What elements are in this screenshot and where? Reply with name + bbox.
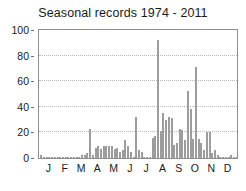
bar [76, 157, 78, 158]
bar [92, 155, 94, 158]
bar [67, 157, 69, 158]
bar [149, 157, 151, 158]
x-tick-label-j-0: J [46, 162, 51, 174]
bar [209, 132, 211, 158]
bar [46, 157, 48, 158]
bar [70, 157, 72, 158]
bar [51, 157, 53, 158]
bar [233, 157, 235, 158]
y-tick-mark-0 [31, 158, 34, 159]
y-tick-mark-60 [31, 81, 34, 82]
bar [206, 132, 208, 158]
bar [97, 146, 99, 158]
bar [219, 157, 221, 158]
bar [154, 136, 156, 158]
bar [173, 145, 175, 158]
bar [195, 67, 197, 158]
bar [138, 150, 140, 158]
bar [124, 140, 126, 158]
bar [119, 152, 121, 158]
x-tick-label-m-2: M [77, 162, 86, 174]
bar [165, 120, 167, 158]
bar [86, 153, 88, 158]
bar [78, 157, 80, 158]
y-axis: 020406080100 [0, 29, 34, 159]
bar [160, 131, 162, 158]
bar-series [40, 30, 236, 158]
bar [103, 146, 105, 158]
x-tick-label-a-3: A [94, 162, 101, 174]
bar [171, 118, 173, 158]
bar [181, 130, 183, 158]
y-tick-mark-100 [31, 30, 34, 31]
bar [127, 146, 129, 158]
bar [95, 148, 97, 158]
y-tick-mark-80 [31, 56, 34, 57]
x-tick-label-m-4: M [109, 162, 118, 174]
bar [190, 109, 192, 158]
bar [152, 138, 154, 158]
x-axis: JFMAMJJASOND [38, 162, 238, 178]
bar [192, 139, 194, 158]
bar [236, 157, 238, 158]
bar [143, 157, 145, 158]
bar [157, 40, 159, 158]
x-tick-label-d-11: D [224, 162, 232, 174]
bar [230, 155, 232, 158]
bar [84, 155, 86, 158]
bar [200, 143, 202, 158]
bar [57, 157, 59, 158]
bar [48, 157, 50, 158]
y-tick-label-20: 20 [17, 126, 29, 138]
x-tick-label-s-8: S [175, 162, 182, 174]
bar [59, 157, 61, 158]
bar [179, 129, 181, 158]
x-tick-label-j-6: J [144, 162, 149, 174]
bar [203, 150, 205, 158]
y-tick-label-40: 40 [17, 101, 29, 113]
bar [40, 155, 42, 158]
bar [217, 155, 219, 158]
bar [176, 143, 178, 158]
bar [100, 149, 102, 158]
bar [73, 157, 75, 158]
bar [133, 157, 135, 158]
bar [108, 146, 110, 158]
bar [116, 148, 118, 158]
y-tick-mark-40 [31, 107, 34, 108]
bar [62, 157, 64, 158]
bar [65, 157, 67, 158]
y-tick-label-0: 0 [23, 152, 29, 164]
bar [43, 157, 45, 158]
bar [122, 150, 124, 158]
bar [228, 157, 230, 158]
bar [198, 139, 200, 158]
bar [141, 152, 143, 158]
bar [162, 113, 164, 158]
bar [114, 149, 116, 158]
bar [89, 129, 91, 158]
chart-figure: Seasonal records 1974 - 2011 02040608010… [0, 0, 246, 191]
bar [187, 91, 189, 158]
x-tick-label-o-9: O [191, 162, 199, 174]
bar [130, 152, 132, 158]
x-tick-label-n-10: N [207, 162, 215, 174]
y-tick-label-60: 60 [17, 75, 29, 87]
y-tick-label-80: 80 [17, 50, 29, 62]
y-tick-label-100: 100 [11, 24, 29, 36]
plot-area [38, 29, 238, 159]
bar [168, 117, 170, 158]
bar [214, 150, 216, 158]
bar [184, 140, 186, 158]
y-tick-mark-20 [31, 132, 34, 133]
bar [222, 157, 224, 158]
chart-title: Seasonal records 1974 - 2011 [0, 6, 246, 20]
bar [225, 157, 227, 158]
x-tick-label-j-5: J [127, 162, 132, 174]
bar [146, 157, 148, 158]
bar [135, 117, 137, 158]
bar [105, 146, 107, 158]
x-tick-label-a-7: A [159, 162, 166, 174]
bar [211, 153, 213, 158]
bar [111, 146, 113, 158]
